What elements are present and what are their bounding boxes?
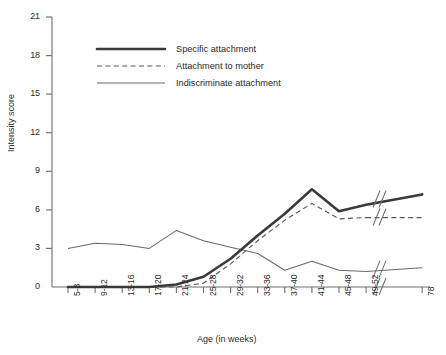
attachment-intensity-line-chart: Intensity score Age (in weeks) 211815129… bbox=[0, 0, 446, 355]
legend-swatch-thick-solid-icon bbox=[95, 43, 167, 55]
x-tick-label: 45-48 bbox=[343, 275, 353, 296]
series-line-specific-attachment bbox=[68, 189, 422, 287]
legend-label-indiscriminate-attachment: Indiscriminate attachment bbox=[167, 78, 281, 88]
x-tick-label: 41-44 bbox=[316, 275, 326, 296]
x-tick-label: 78 bbox=[426, 287, 436, 296]
x-axis-label: Age (in weeks) bbox=[197, 334, 257, 344]
y-tick-marks bbox=[46, 17, 52, 248]
y-tick-label: 15 bbox=[20, 88, 40, 98]
chart-legend: Specific attachment Attachment to mother… bbox=[95, 40, 305, 91]
x-tick-label: 17-20 bbox=[153, 275, 163, 296]
legend-item-specific-attachment: Specific attachment bbox=[95, 40, 305, 57]
x-tick-label: 25-28 bbox=[208, 275, 218, 296]
y-tick-label: 21 bbox=[20, 11, 40, 21]
legend-item-attachment-to-mother: Attachment to mother bbox=[95, 57, 305, 74]
y-tick-label: 0 bbox=[20, 281, 40, 291]
x-tick-label: 13-16 bbox=[126, 275, 136, 296]
x-tick-label: 21-24 bbox=[180, 275, 190, 296]
legend-swatch-thin-solid-icon bbox=[95, 77, 167, 89]
legend-swatch-dashed-icon bbox=[95, 60, 167, 72]
y-tick-label: 9 bbox=[20, 165, 40, 175]
y-tick-label: 18 bbox=[20, 50, 40, 60]
y-axis-label: Intensity score bbox=[6, 85, 16, 161]
series-layer bbox=[68, 189, 422, 287]
x-tick-label: 9-12 bbox=[99, 279, 109, 296]
x-tick-label: 5-8 bbox=[72, 284, 82, 296]
legend-label-specific-attachment: Specific attachment bbox=[167, 44, 256, 54]
x-tick-label: 37-40 bbox=[289, 275, 299, 296]
x-tick-label: 29-32 bbox=[235, 275, 245, 296]
legend-label-attachment-to-mother: Attachment to mother bbox=[167, 61, 264, 71]
y-tick-label: 3 bbox=[20, 242, 40, 252]
x-tick-label: 33-36 bbox=[262, 275, 272, 296]
legend-item-indiscriminate-attachment: Indiscriminate attachment bbox=[95, 74, 305, 91]
y-tick-label: 6 bbox=[20, 204, 40, 214]
y-tick-label: 12 bbox=[20, 127, 40, 137]
x-tick-label: 49-52 bbox=[370, 275, 380, 296]
